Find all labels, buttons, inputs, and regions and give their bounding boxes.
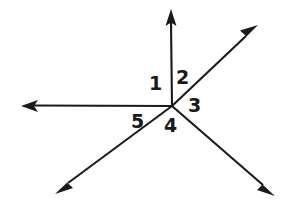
ray-horizontal-left bbox=[21, 100, 172, 112]
angle-diagram-figure: 1 2 3 4 5 bbox=[0, 0, 286, 208]
ray-lower-left bbox=[55, 106, 172, 194]
angle-label-3: 3 bbox=[188, 96, 201, 115]
ray-horizontal-left-line bbox=[34, 106, 172, 107]
angle-label-1: 1 bbox=[149, 74, 162, 93]
angle-diagram-canvas bbox=[0, 0, 286, 208]
angle-label-2: 2 bbox=[176, 68, 189, 87]
arrowhead-lower-left-icon bbox=[55, 177, 73, 194]
angle-label-4: 4 bbox=[164, 116, 177, 135]
ray-vertical-up bbox=[166, 9, 177, 106]
ray-vertical-up-line bbox=[171, 22, 172, 106]
ray-lower-right bbox=[172, 106, 275, 196]
angle-label-5: 5 bbox=[131, 112, 144, 131]
ray-lower-left-line bbox=[68, 106, 172, 183]
rays-group bbox=[21, 9, 275, 196]
ray-lower-right-line bbox=[172, 106, 263, 185]
